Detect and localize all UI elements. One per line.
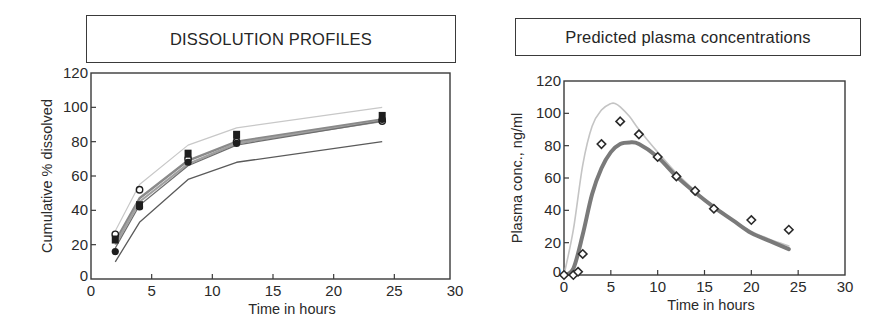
filled-square-marker [233, 131, 240, 139]
y-tick-label: 40 [544, 201, 561, 218]
plasma-x-axis: 051015202530 [560, 270, 854, 295]
diamond-marker [616, 117, 624, 125]
dissolution-y-label: Cumulative % dissolved [39, 99, 55, 253]
filled-circle-marker [136, 203, 143, 210]
x-tick-label: 5 [607, 278, 615, 295]
dissolution-chart: 051015202530 020406080100120 Time in hou… [39, 64, 463, 317]
y-tick-label: 100 [536, 104, 561, 121]
y-tick-label: 60 [544, 169, 561, 186]
y-tick-label: 20 [71, 236, 88, 253]
diamond-marker [747, 216, 755, 224]
x-tick-label: 20 [743, 278, 760, 295]
x-tick-label: 10 [204, 282, 221, 299]
filled-circle-marker [184, 159, 191, 166]
plasma-chart: 051015202530 020406080100120 Time in hou… [509, 72, 853, 313]
x-tick-label: 30 [447, 282, 464, 299]
plasma-plot-frame [564, 81, 845, 275]
y-tick-label: 40 [71, 201, 88, 218]
x-tick-label: 0 [87, 282, 95, 299]
predicted-mean-curve [564, 142, 789, 275]
dissolution-line [115, 119, 382, 241]
dissolution-markers [112, 112, 386, 255]
filled-square-marker [112, 236, 119, 244]
x-tick-label: 0 [560, 278, 568, 295]
dissolution-lines [115, 107, 382, 262]
y-tick-label: 60 [71, 167, 88, 184]
x-tick-label: 25 [790, 278, 807, 295]
x-tick-label: 30 [837, 278, 854, 295]
charts-canvas: 051015202530 020406080100120 Time in hou… [0, 0, 888, 331]
predicted-upper-curve [564, 103, 789, 275]
diamond-marker [597, 140, 605, 148]
y-tick-label: 80 [544, 137, 561, 154]
filled-circle-marker [379, 116, 386, 123]
x-tick-label: 15 [696, 278, 713, 295]
dissolution-x-label: Time in hours [248, 301, 335, 317]
plasma-x-label: Time in hours [667, 297, 754, 313]
y-tick-label: 20 [544, 234, 561, 251]
x-tick-label: 15 [265, 282, 282, 299]
filled-square-marker [185, 150, 192, 158]
x-tick-label: 5 [147, 282, 155, 299]
y-tick-label: 0 [80, 267, 88, 284]
filled-circle-marker [112, 248, 119, 255]
y-tick-label: 120 [63, 64, 88, 81]
dissolution-x-axis: 051015202530 [87, 274, 464, 299]
y-tick-label: 0 [553, 263, 561, 280]
y-tick-label: 100 [63, 98, 88, 115]
plasma-curves [564, 103, 789, 275]
x-tick-label: 20 [325, 282, 342, 299]
filled-circle-marker [233, 140, 240, 147]
diamond-marker [635, 130, 643, 138]
x-tick-label: 10 [649, 278, 666, 295]
diamond-marker [785, 226, 793, 234]
dissolution-line [115, 142, 382, 262]
x-tick-label: 25 [386, 282, 403, 299]
y-tick-label: 120 [536, 72, 561, 89]
plasma-markers [560, 117, 793, 279]
y-tick-label: 80 [71, 133, 88, 150]
dissolution-plot-frame [91, 73, 450, 279]
plasma-y-label: Plasma conc., ng/ml [509, 113, 525, 244]
